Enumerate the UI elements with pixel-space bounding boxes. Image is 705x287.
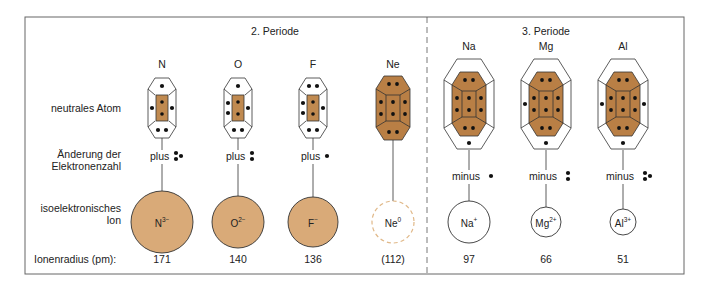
- valence-electron: [315, 128, 319, 132]
- valence-electron: [232, 128, 236, 132]
- core-electron: [544, 108, 548, 112]
- core-electron: [463, 78, 467, 82]
- core-electron: [395, 82, 399, 86]
- shell-divider: [486, 80, 494, 85]
- row-label-neutral-atom: neutrales Atom: [51, 102, 121, 114]
- electron-change-word: minus: [606, 170, 634, 182]
- core-electron: [160, 100, 164, 104]
- core-electron: [633, 96, 637, 100]
- valence-electron: [240, 128, 244, 132]
- core-electron: [467, 96, 471, 100]
- core-electron: [625, 126, 629, 130]
- core-electron: [379, 112, 383, 116]
- filled-shell: [529, 72, 563, 136]
- ion-label-n: N3−: [155, 216, 170, 229]
- core-electron: [633, 108, 637, 112]
- electron-dot: [566, 177, 570, 181]
- core-electron: [395, 130, 399, 134]
- core-electron: [160, 112, 164, 116]
- row-label-ion-2: Ion: [106, 214, 121, 226]
- valence-electron: [150, 106, 154, 110]
- core-electron: [403, 100, 407, 104]
- electron-dot: [174, 151, 178, 155]
- electron-change-word: plus: [226, 150, 245, 162]
- core-electron: [540, 126, 544, 130]
- shell-divider: [640, 80, 648, 85]
- frame-border: [25, 17, 684, 274]
- core-electron: [463, 126, 467, 130]
- core-electron: [540, 78, 544, 82]
- shell-divider: [598, 123, 606, 128]
- element-symbol-n: N: [158, 58, 166, 70]
- core-electron: [479, 96, 483, 100]
- ion-label-ne: Ne0: [385, 216, 401, 229]
- shell-divider: [245, 89, 252, 95]
- valence-electron: [307, 128, 311, 132]
- ion-radius-value: 140: [229, 253, 247, 265]
- period-2-heading: 2. Periode: [251, 25, 299, 37]
- shell-divider: [598, 80, 606, 85]
- valence-electron: [307, 84, 311, 88]
- ion-label-o: O2−: [230, 216, 245, 229]
- core-electron: [625, 78, 629, 82]
- ion-charge: 0: [398, 216, 402, 223]
- ion-label-mg: Mg2+: [535, 216, 556, 229]
- shell-divider: [169, 89, 176, 95]
- core-electron: [379, 100, 383, 104]
- core-electron: [556, 108, 560, 112]
- electron-dot: [489, 174, 493, 178]
- valence-electron: [226, 111, 230, 115]
- valence-electron: [156, 128, 160, 132]
- core-electron: [471, 78, 475, 82]
- core-electron: [471, 126, 475, 130]
- core-electron: [548, 78, 552, 82]
- core-electron: [403, 112, 407, 116]
- filled-shell: [452, 72, 486, 136]
- ion-label-f: F−: [308, 216, 318, 229]
- row-label-ion-radius: Ionenradius (pm):: [34, 253, 116, 265]
- shell-divider: [521, 123, 529, 128]
- core-electron: [236, 112, 240, 116]
- core-electron: [532, 96, 536, 100]
- valence-electron: [246, 106, 250, 110]
- period-3-heading: 3. Periode: [522, 25, 570, 37]
- valence-electron: [170, 106, 174, 110]
- core-shell: [156, 95, 168, 121]
- ion-charge: 2−: [238, 216, 245, 223]
- valence-electron: [164, 128, 168, 132]
- ion-radius-value: 136: [304, 253, 322, 265]
- core-electron: [387, 130, 391, 134]
- row-label-ion-1: isoelektronisches: [40, 202, 121, 214]
- electron-change-word: plus: [150, 150, 169, 162]
- electron-dot: [643, 177, 647, 181]
- shell-divider: [521, 80, 529, 85]
- electron-dot: [250, 151, 254, 155]
- shell-divider: [563, 123, 571, 128]
- shell-divider: [148, 121, 155, 127]
- valence-electron: [160, 84, 164, 88]
- core-electron: [236, 100, 240, 104]
- shell-divider: [444, 123, 452, 128]
- electron-dot: [566, 171, 570, 175]
- core-electron: [621, 108, 625, 112]
- valence-electron: [642, 102, 646, 106]
- element-symbol-na: Na: [462, 40, 475, 52]
- core-electron: [544, 96, 548, 100]
- core-electron: [391, 112, 395, 116]
- core-electron: [311, 100, 315, 104]
- shell-divider: [563, 80, 571, 85]
- row-label-change-1: Änderung der: [57, 148, 121, 160]
- shell-divider: [299, 89, 306, 95]
- ion-label-al: Al3+: [615, 216, 631, 229]
- core-electron: [391, 100, 395, 104]
- core-electron: [479, 108, 483, 112]
- core-electron: [609, 96, 613, 100]
- valence-electron: [523, 102, 527, 106]
- shell-divider: [148, 89, 155, 95]
- core-shell: [232, 95, 244, 121]
- core-electron: [617, 126, 621, 130]
- ion-radius-value: (112): [381, 253, 405, 265]
- shell-divider: [320, 121, 327, 127]
- shell-divider: [486, 123, 494, 128]
- shell-divider: [224, 121, 231, 127]
